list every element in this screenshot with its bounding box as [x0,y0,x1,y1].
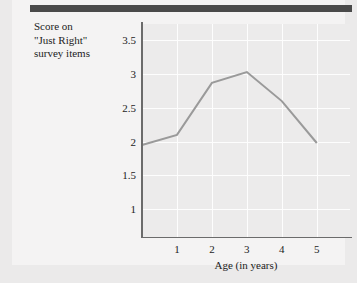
x-tick-label: 4 [270,243,294,255]
y-tick-label: 1.5 [108,169,136,181]
series-polyline [142,72,317,145]
x-axis-line [141,237,352,239]
series-line-chart [142,24,350,237]
x-tick-labels: 12345 [142,243,350,259]
y-axis-line [141,22,143,238]
y-tick-label: 3 [108,68,136,80]
plot-area [142,24,350,237]
x-tick-label: 2 [200,243,224,255]
y-tick-label: 2 [108,136,136,148]
x-tick-label: 1 [165,243,189,255]
top-rule-divider [30,5,352,12]
y-tick-label: 3.5 [108,34,136,46]
x-tick-label: 5 [305,243,329,255]
y-tick-labels: 11.522.533.5 [108,0,136,283]
y-tick-label: 1 [108,203,136,215]
x-axis-label: Age (in years) [142,259,350,271]
y-tick-label: 2.5 [108,102,136,114]
x-tick-label: 3 [235,243,259,255]
figure-card: Score on "Just Right" survey items 11.52… [12,0,345,265]
